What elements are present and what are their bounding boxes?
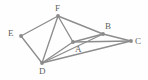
geometry-figure: ABCDEF (0, 0, 148, 80)
vertex-label-e: E (8, 29, 14, 38)
edge-fb (58, 16, 103, 34)
edge-fa (58, 16, 73, 42)
edge-ed (21, 36, 42, 63)
vertices-group (19, 14, 133, 65)
vertex-label-f: F (55, 4, 60, 13)
vertex-label-b: B (105, 22, 111, 31)
edge-ac (73, 41, 131, 42)
edge-bc (103, 34, 131, 41)
vertex-label-a: A (75, 45, 82, 54)
vertex-e (19, 34, 23, 38)
vertex-f (56, 14, 60, 18)
vertex-label-c: C (135, 37, 141, 46)
graph-canvas (0, 0, 148, 80)
vertex-b (101, 32, 105, 36)
vertex-c (129, 39, 133, 43)
vertex-label-d: D (39, 67, 46, 76)
edge-dc (42, 41, 131, 63)
edges-group (21, 16, 131, 63)
vertex-d (40, 61, 44, 65)
edge-db (42, 34, 103, 63)
